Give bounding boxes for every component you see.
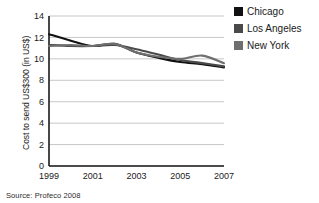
y-tick-label: 6: [39, 97, 44, 107]
x-tick-label: 2005: [170, 171, 190, 181]
y-tick-label: 14: [34, 11, 44, 21]
y-tick-label: 10: [34, 54, 44, 64]
y-axis-tick-labels: 02468101214: [34, 11, 44, 171]
x-tick-label: 2003: [126, 171, 146, 181]
chart-svg: 02468101214 19992001200320052007 Cost to…: [0, 0, 319, 203]
series-lines: [49, 34, 224, 67]
legend-swatch-los-angeles: [234, 24, 243, 33]
y-tick-label: 12: [34, 33, 44, 43]
legend-label-chicago: Chicago: [247, 6, 284, 17]
line-chart: 02468101214 19992001200320052007 Cost to…: [0, 0, 319, 203]
source-note: Source: Profeco 2008: [6, 191, 81, 200]
y-tick-label: 8: [39, 75, 44, 85]
x-tick-label: 2001: [83, 171, 103, 181]
x-tick-label: 1999: [39, 171, 59, 181]
y-tick-label: 0: [39, 161, 44, 171]
legend-label-new-york: New York: [247, 40, 290, 51]
x-tick-label: 2007: [214, 171, 234, 181]
chart-screenshot: 02468101214 19992001200320052007 Cost to…: [0, 0, 319, 203]
y-tick-label: 2: [39, 140, 44, 150]
x-axis-tick-labels: 19992001200320052007: [39, 171, 234, 181]
gridlines: [49, 16, 224, 166]
y-tick-label: 4: [39, 118, 44, 128]
legend-swatch-chicago: [234, 7, 243, 16]
chart-legend: ChicagoLos AngelesNew York: [234, 6, 302, 51]
legend-label-los-angeles: Los Angeles: [247, 23, 302, 34]
y-axis-title: Cost to send US$300 (in US$): [21, 35, 31, 150]
legend-swatch-new-york: [234, 41, 243, 50]
